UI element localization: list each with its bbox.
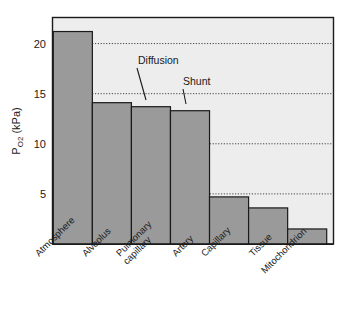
- y-tick-label-15: 15: [34, 88, 46, 100]
- bar-chart-svg: 20 15 10 5 PO2 (kPa) Diffusion Shunt: [0, 0, 349, 316]
- chart-figure: 20 15 10 5 PO2 (kPa) Diffusion Shunt: [0, 0, 349, 316]
- bar-artery: [170, 111, 209, 244]
- y-tick-label-5: 5: [40, 188, 46, 200]
- annotation-diffusion-label: Diffusion: [138, 54, 179, 66]
- y-tick-label-10: 10: [34, 138, 46, 150]
- bar-alveolus: [92, 103, 131, 244]
- bar-atmosphere: [53, 32, 92, 244]
- y-axis-title-unit: (kPa): [10, 107, 22, 136]
- annotation-shunt-label: Shunt: [183, 75, 211, 87]
- y-tick-label-20: 20: [34, 38, 46, 50]
- bar-pulmonary-capillary: [131, 107, 170, 244]
- y-axis-title-p: P: [10, 147, 22, 154]
